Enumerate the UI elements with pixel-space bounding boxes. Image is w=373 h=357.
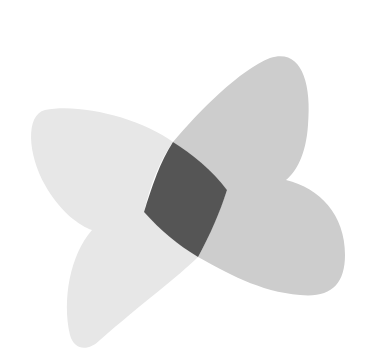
overlapping-petals-diagram	[0, 0, 373, 357]
